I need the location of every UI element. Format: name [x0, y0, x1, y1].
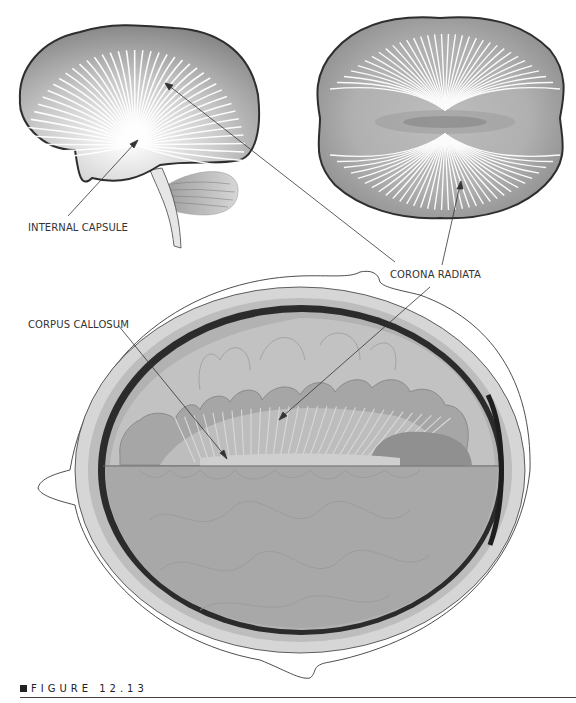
figure-illustration: (function(){ var ns = "http://www.w3.org…	[0, 0, 576, 703]
label-internal-capsule: INTERNAL CAPSULE	[28, 222, 128, 233]
caption-text: FIGURE 12.13	[31, 683, 148, 694]
caption-rule	[20, 697, 576, 698]
figure-caption: FIGURE 12.13	[20, 683, 148, 694]
lateral-brain	[20, 25, 259, 248]
coronal-section	[38, 271, 530, 678]
label-corona-radiata: CORONA RADIATA	[390, 269, 481, 280]
label-corpus-callosum: CORPUS CALLOSUM	[28, 319, 129, 330]
caption-square-icon	[20, 685, 27, 692]
superior-brain	[317, 17, 563, 218]
